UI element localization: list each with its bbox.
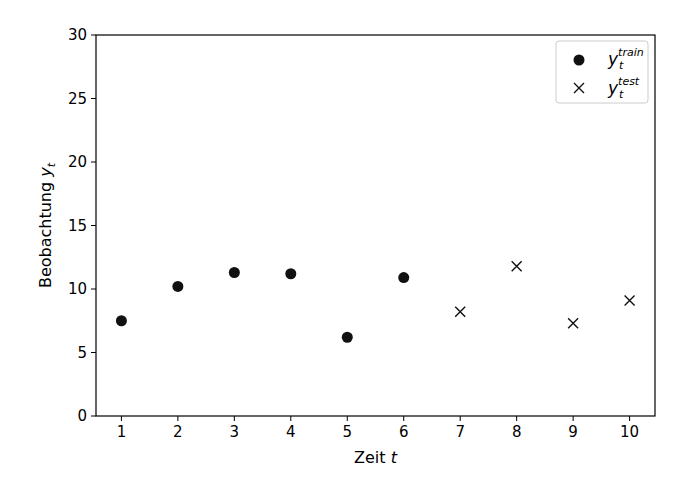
x-tick-label: 10 <box>620 423 639 441</box>
y-tick-label: 5 <box>77 344 87 362</box>
train-point <box>398 272 409 283</box>
train-point <box>172 281 183 292</box>
x-axis-label: Zeit t <box>354 448 398 467</box>
train-point <box>116 315 127 326</box>
y-axis-label: Beobachtung yt <box>36 162 58 288</box>
x-tick-label: 7 <box>455 423 465 441</box>
train-point <box>285 268 296 279</box>
test-point <box>455 307 465 317</box>
y-tick-label: 10 <box>68 280 87 298</box>
x-tick-label: 6 <box>399 423 409 441</box>
legend-train-marker <box>574 55 585 66</box>
y-tick-label: 0 <box>77 407 87 425</box>
y-tick-label: 20 <box>68 153 87 171</box>
x-tick-label: 2 <box>173 423 183 441</box>
x-tick-label: 4 <box>286 423 296 441</box>
x-tick-label: 8 <box>512 423 522 441</box>
test-point <box>512 261 522 271</box>
x-tick-label: 1 <box>117 423 127 441</box>
train-point <box>342 332 353 343</box>
y-tick-label: 30 <box>68 26 87 44</box>
scatter-chart: 12345678910051015202530Zeit tBeobachtung… <box>0 0 700 485</box>
y-tick-label: 25 <box>68 90 87 108</box>
test-point <box>625 295 635 305</box>
x-tick-label: 9 <box>568 423 578 441</box>
train-point <box>229 267 240 278</box>
test-point <box>568 318 578 328</box>
x-tick-label: 5 <box>342 423 352 441</box>
x-tick-label: 3 <box>230 423 240 441</box>
y-tick-label: 15 <box>68 217 87 235</box>
